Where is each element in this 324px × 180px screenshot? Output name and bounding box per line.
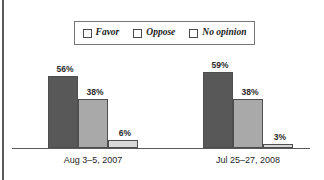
chart-figure: Favor Oppose No opinion 56% 38% 6% Aug 3… xyxy=(0,0,324,180)
bar-no-opinion-group-2 xyxy=(263,144,293,148)
category-label-group-1: Aug 3–5, 2007 xyxy=(48,156,138,165)
bar-oppose-group-2 xyxy=(233,99,263,148)
bar-value-favor-group-2: 59% xyxy=(205,61,235,70)
plot-area: 56% 38% 6% Aug 3–5, 2007 59% 38% 3% Jul … xyxy=(0,0,324,180)
bar-value-favor-group-1: 56% xyxy=(50,65,80,74)
bar-value-no-opinion-group-1: 6% xyxy=(110,129,140,138)
bar-oppose-group-1 xyxy=(78,99,108,148)
bar-favor-group-2 xyxy=(203,72,233,148)
bar-favor-group-1 xyxy=(48,76,78,148)
bar-value-oppose-group-2: 38% xyxy=(235,88,265,97)
bar-value-oppose-group-1: 38% xyxy=(80,88,110,97)
bar-value-no-opinion-group-2: 3% xyxy=(265,133,295,142)
bar-no-opinion-group-1 xyxy=(108,140,138,148)
x-axis-baseline xyxy=(12,148,310,149)
category-label-group-2: Jul 25–27, 2008 xyxy=(203,156,293,165)
